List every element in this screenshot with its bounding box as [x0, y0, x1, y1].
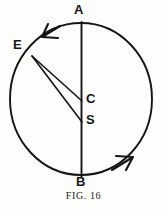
- point-label-c: C: [86, 92, 95, 105]
- point-label-a: A: [74, 3, 83, 16]
- figure-container: A E C S B FIG. 16: [0, 0, 167, 210]
- chord-line-es: [32, 56, 82, 122]
- point-label-e: E: [13, 38, 22, 51]
- point-label-s: S: [86, 113, 95, 126]
- figure-caption: FIG. 16: [0, 190, 167, 201]
- direction-arrow-lower-right-icon: [112, 156, 133, 170]
- chord-line-ec: [32, 56, 82, 101]
- point-label-b: B: [76, 175, 85, 188]
